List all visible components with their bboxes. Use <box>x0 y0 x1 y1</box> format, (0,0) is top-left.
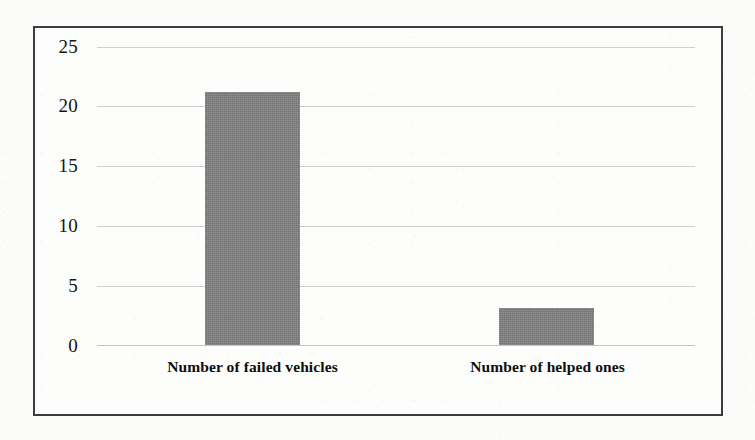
y-axis-tick-20: 20 <box>32 96 78 115</box>
y-axis-tick-10: 10 <box>32 216 78 235</box>
chart-page: 25 20 15 10 5 0 Number of failed vehicle… <box>0 0 755 440</box>
chart-frame: 25 20 15 10 5 0 Number of failed vehicle… <box>33 26 723 416</box>
gridline-25 <box>97 47 695 48</box>
x-axis-label-helped-ones: Number of helped ones <box>427 359 668 375</box>
gridline-5 <box>97 286 695 287</box>
bar-number-of-helped-ones[interactable] <box>499 308 594 345</box>
gridline-15 <box>97 166 695 167</box>
gridline-0 <box>97 345 695 346</box>
gridline-20 <box>97 106 695 107</box>
y-axis-tick-15: 15 <box>32 156 78 175</box>
x-axis-label-failed-vehicles: Number of failed vehicles <box>132 359 373 375</box>
plot-area: 25 20 15 10 5 0 Number of failed vehicle… <box>35 28 721 414</box>
bar-number-of-failed-vehicles[interactable] <box>205 92 300 345</box>
y-axis-tick-5: 5 <box>32 276 78 295</box>
y-axis-tick-0: 0 <box>32 336 78 355</box>
gridline-10 <box>97 226 695 227</box>
y-axis-tick-25: 25 <box>32 37 78 56</box>
